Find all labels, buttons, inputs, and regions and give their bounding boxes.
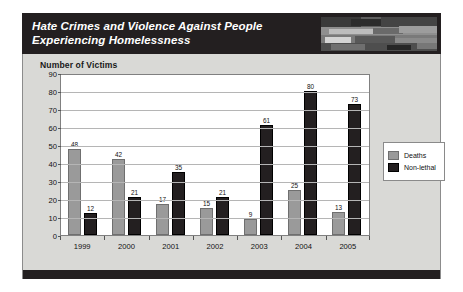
x-axis-tick-mark [60, 236, 61, 240]
x-axis-tick-2002: 2002 [193, 236, 237, 254]
x-axis-tick-1999: 1999 [60, 236, 104, 254]
x-axis-tick-2000: 2000 [104, 236, 148, 254]
plot-area: 481242211735152196125801373 [60, 74, 370, 236]
bar-value-label: 61 [263, 117, 270, 124]
photo-streak [331, 44, 365, 50]
photo-streak [399, 26, 437, 33]
bar-value-label: 9 [249, 211, 253, 218]
y-axis-tick-label: 30 [39, 178, 57, 187]
y-axis-tick-label: 50 [39, 142, 57, 151]
bar-value-label: 21 [131, 189, 138, 196]
gridline [61, 128, 369, 129]
bar-value-label: 12 [87, 205, 94, 212]
legend-swatch [388, 163, 399, 172]
bar-group: 4812 [61, 75, 105, 235]
y-axis-tick-label: 40 [39, 160, 57, 169]
figure-container: Hate Crimes and Violence Against People … [22, 13, 441, 279]
bar-value-label: 35 [175, 164, 182, 171]
bar-group: 1373 [325, 75, 369, 235]
x-axis-tick-label: 2000 [118, 242, 135, 251]
photo-streak [417, 43, 437, 49]
gridline [61, 164, 369, 165]
x-axis-tick-2003: 2003 [237, 236, 281, 254]
chart-legend: DeathsNon-lethal [383, 142, 445, 181]
bar-deaths-2005[interactable]: 13 [332, 212, 345, 235]
x-axis-tick-mark [326, 236, 327, 240]
y-axis-tick-label: 60 [39, 124, 57, 133]
x-axis-tick-mark [193, 236, 194, 240]
x-axis-tick-mark [149, 236, 150, 240]
figure-header: Hate Crimes and Violence Against People … [22, 13, 441, 54]
y-axis-tick-label: 80 [39, 88, 57, 97]
figure-title-line-1: Hate Crimes and Violence Against People [32, 19, 321, 33]
gridline [61, 200, 369, 201]
y-axis-tick-label: 90 [39, 70, 57, 79]
bar-deaths-2000[interactable]: 42 [112, 159, 125, 235]
x-axis-tick-mark [104, 236, 105, 240]
gridline [61, 182, 369, 183]
bar-value-label: 73 [351, 96, 358, 103]
bar-deaths-2004[interactable]: 25 [288, 190, 301, 235]
bar-group: 4221 [105, 75, 149, 235]
legend-swatch [388, 151, 399, 160]
x-axis-tick-label: 2003 [251, 242, 268, 251]
x-axis-tick-label: 2005 [339, 242, 356, 251]
bar-nonlethal-2005[interactable]: 73 [348, 104, 361, 235]
x-axis-tick-label: 2004 [295, 242, 312, 251]
figure-body-panel: Number of Victims 0102030405060708090 48… [22, 54, 441, 279]
bar-deaths-2002[interactable]: 15 [200, 208, 213, 235]
photo-streak [387, 45, 411, 50]
gridline [61, 92, 369, 93]
bar-value-label: 15 [203, 200, 210, 207]
figure-title-line-2: Experiencing Homelessness [32, 33, 321, 47]
y-axis-tick-label: 70 [39, 106, 57, 115]
photo-streak [329, 29, 373, 34]
figure-title: Hate Crimes and Violence Against People … [22, 13, 321, 54]
legend-label: Deaths [404, 152, 426, 159]
bar-deaths-1999[interactable]: 48 [68, 149, 81, 235]
y-axis: 0102030405060708090 [35, 74, 57, 236]
gridline [61, 110, 369, 111]
bar-group: 961 [237, 75, 281, 235]
bar-nonlethal-2004[interactable]: 80 [304, 91, 317, 235]
bar-nonlethal-1999[interactable]: 12 [84, 213, 97, 235]
bar-nonlethal-2000[interactable]: 21 [128, 197, 141, 235]
legend-label: Non-lethal [404, 164, 436, 171]
bar-value-label: 80 [307, 83, 314, 90]
y-axis-tick-label: 0 [39, 232, 57, 241]
x-axis-tick-mark [281, 236, 282, 240]
x-axis-tick-2005: 2005 [326, 236, 370, 254]
x-axis: 1999200020012002200320042005 [60, 236, 370, 254]
bar-value-label: 13 [335, 204, 342, 211]
bar-deaths-2001[interactable]: 17 [156, 204, 169, 235]
bar-group: 2580 [281, 75, 325, 235]
x-axis-tick-2001: 2001 [149, 236, 193, 254]
bar-chart: 0102030405060708090 48124221173515219612… [35, 74, 427, 264]
bar-group: 1735 [149, 75, 193, 235]
bar-groups: 481242211735152196125801373 [61, 75, 369, 235]
x-axis-tick-mark [237, 236, 238, 240]
header-photo-image [321, 17, 437, 51]
x-axis-tick-label: 2002 [207, 242, 224, 251]
bar-value-label: 42 [115, 151, 122, 158]
bar-deaths-2003[interactable]: 9 [244, 219, 257, 235]
y-axis-tick-mark [58, 74, 61, 75]
legend-item-deaths[interactable]: Deaths [388, 151, 440, 160]
bar-nonlethal-2002[interactable]: 21 [216, 197, 229, 235]
bar-value-label: 25 [291, 182, 298, 189]
gridline [61, 146, 369, 147]
bar-value-label: 21 [219, 189, 226, 196]
x-axis-tick-label: 1999 [74, 242, 91, 251]
y-axis-tick-label: 10 [39, 214, 57, 223]
gridline [61, 218, 369, 219]
y-axis-tick-label: 20 [39, 196, 57, 205]
x-axis-tick-mark [369, 236, 370, 240]
bar-group: 1521 [193, 75, 237, 235]
x-axis-tick-2004: 2004 [281, 236, 325, 254]
x-axis-tick-label: 2001 [162, 242, 179, 251]
chart-heading: Number of Victims [40, 60, 117, 70]
figure-footer-bar [23, 270, 440, 279]
legend-item-non-lethal[interactable]: Non-lethal [388, 163, 440, 172]
